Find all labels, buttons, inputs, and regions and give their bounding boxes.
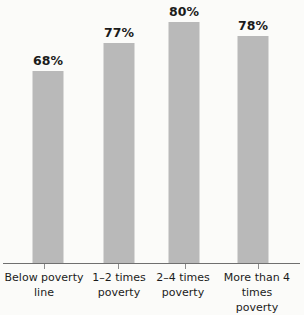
x-axis-label-line-1: More than 4 times (211, 270, 303, 300)
x-axis-tick-4 (258, 264, 259, 269)
bar-value-label-4: 78% (216, 19, 290, 33)
bar-1-2-times-poverty[interactable] (104, 43, 135, 264)
bar-group-1: 68% (11, 0, 85, 264)
bar-group-4: 78% (216, 0, 290, 264)
x-axis-label-line-1: 1–2 times (88, 270, 150, 285)
x-axis-tick-1 (44, 264, 45, 269)
x-axis-label-below-poverty-line: Below poverty line (2, 270, 86, 300)
bar-value-label-1: 68% (11, 54, 85, 68)
x-axis-labels: Below poverty line 1–2 times poverty 2–4… (0, 270, 304, 310)
bar-below-poverty-line[interactable] (33, 71, 64, 264)
x-axis-label-line-2: poverty (211, 300, 303, 315)
bar-value-label-2: 77% (82, 26, 156, 40)
x-axis-label-line-2: poverty (152, 285, 214, 300)
x-axis-label-line-1: 2–4 times (152, 270, 214, 285)
bar-group-3: 80% (147, 0, 221, 264)
x-axis-label-line-1: Below poverty (2, 270, 86, 285)
x-axis-label-line-2: poverty (88, 285, 150, 300)
bar-value-label-3: 80% (147, 5, 221, 19)
plot-area: 68% 77% 80% 78% (0, 0, 304, 264)
bar-group-2: 77% (82, 0, 156, 264)
x-axis-tick-3 (185, 264, 186, 269)
x-axis-label-1-2-times-poverty: 1–2 times poverty (88, 270, 150, 300)
bar-more-than-4-times-poverty[interactable] (238, 36, 269, 264)
x-axis-label-line-2: line (2, 285, 86, 300)
x-axis-label-2-4-times-poverty: 2–4 times poverty (152, 270, 214, 300)
x-axis-label-more-than-4-times-poverty: More than 4 times poverty (211, 270, 303, 315)
x-axis-tick-2 (118, 264, 119, 269)
bar-2-4-times-poverty[interactable] (169, 22, 200, 264)
x-axis-line (3, 263, 300, 264)
